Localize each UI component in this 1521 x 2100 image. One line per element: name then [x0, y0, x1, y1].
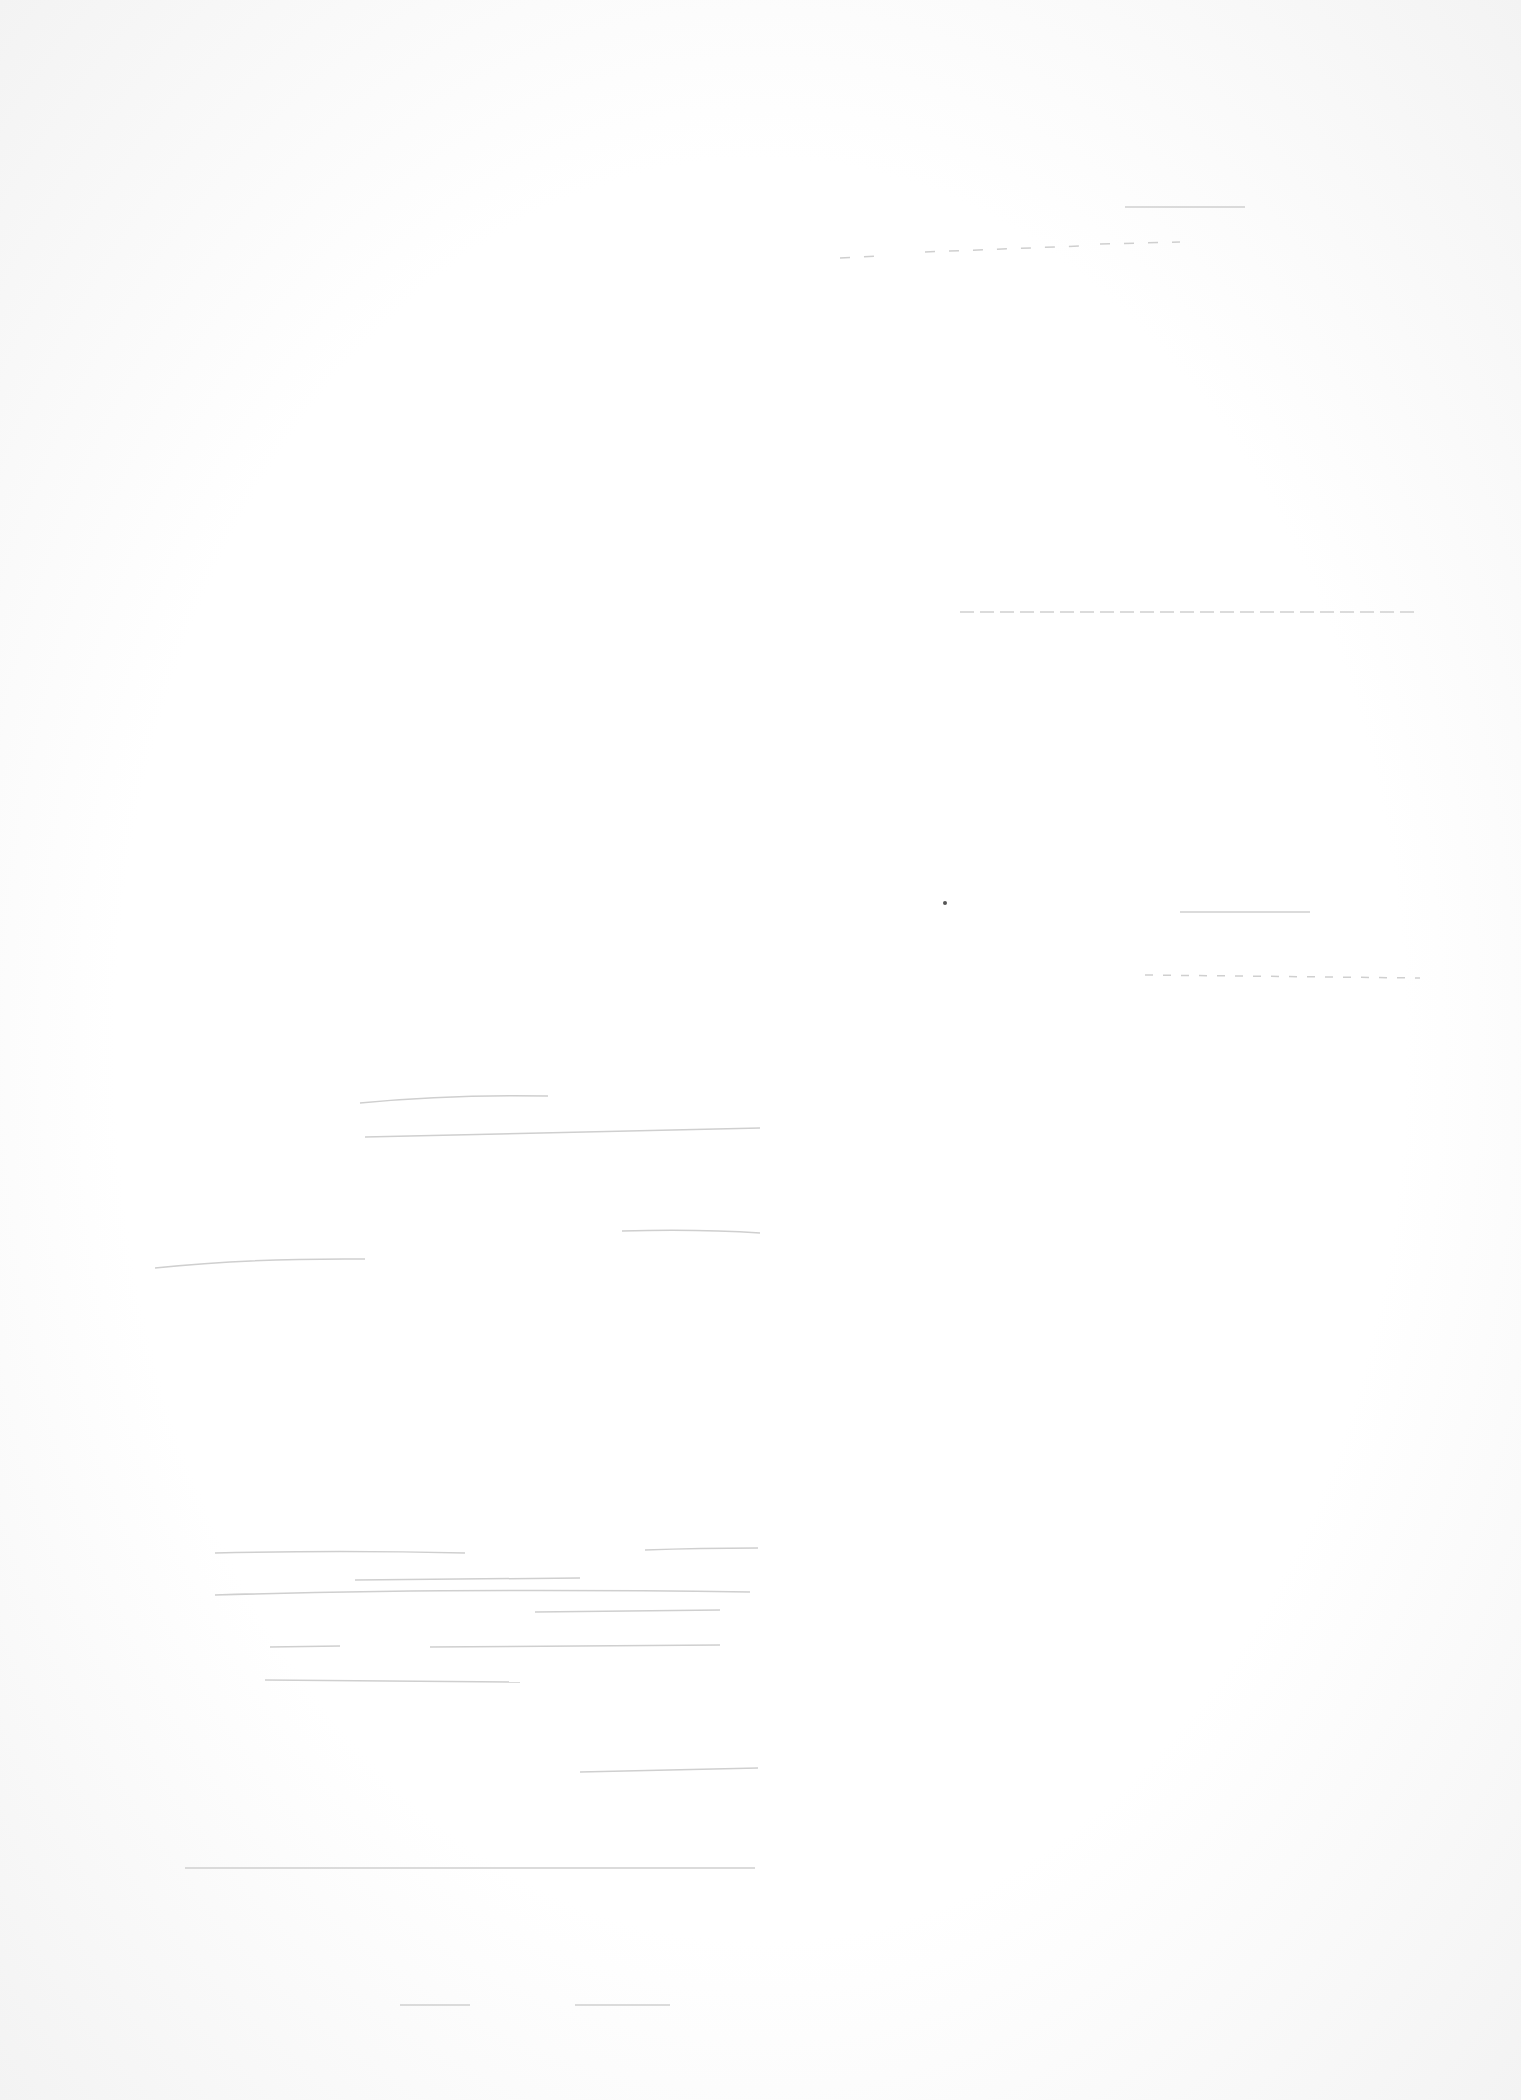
- scanned-page: [0, 0, 1521, 2100]
- faint-pencil-marks: [0, 0, 1521, 2100]
